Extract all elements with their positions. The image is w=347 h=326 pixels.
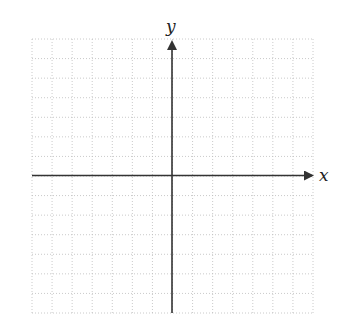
- y-axis-label: y: [165, 16, 176, 36]
- coordinate-plane: x y: [0, 0, 347, 326]
- x-axis-label: x: [319, 165, 329, 185]
